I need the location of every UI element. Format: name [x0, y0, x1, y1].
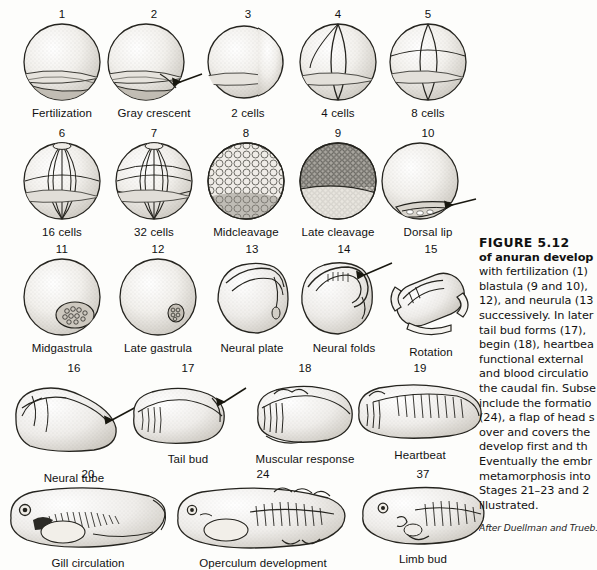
stage-number: 4: [335, 8, 342, 21]
stage-17: 17 Tail bud: [134, 362, 242, 466]
embryo-drawing-rotation: [385, 257, 477, 341]
caption-line: 12), and neurula (13: [479, 294, 597, 309]
caption-line: FIGURE 5.12: [479, 236, 597, 251]
stage-number: 17: [181, 362, 194, 375]
stage-number: 16: [67, 362, 80, 375]
embryo-drawing-tail-bud: [128, 376, 248, 448]
stage-number: 3: [245, 8, 252, 21]
caption-line: Stages 21–23 and 2: [479, 484, 597, 499]
stage-number: 15: [424, 243, 437, 256]
stage-5: 5 8 cells: [384, 8, 472, 120]
stage-label: Midcleavage: [213, 226, 279, 239]
caption-line: and blood circulatio: [479, 367, 597, 382]
stage-label: Fertilization: [32, 107, 92, 120]
embryo-drawing-sphere-midgast: [22, 257, 102, 337]
stage-9: 9 Late cleavage: [292, 127, 384, 239]
caption-line: functional external: [479, 353, 597, 368]
caption-line: begin (18), heartbea: [479, 338, 597, 353]
embryo-drawing-neural-folds: [296, 257, 392, 337]
stage-19: 19 Heartbeat: [368, 362, 472, 462]
embryo-plate: 1 Fertilization2 Gray crescent3: [0, 0, 472, 545]
stage-label: Late gastrula: [124, 342, 192, 355]
figure-caption: FIGURE 5.12of anuran developwith fertili…: [479, 236, 597, 545]
embryo-drawing-sphere-8cell: [388, 22, 468, 102]
stage-label: Heartbeat: [394, 449, 445, 462]
stage-label: 8 cells: [411, 107, 444, 120]
caption-line: illustrated.: [479, 499, 597, 514]
stage-2: 2 Gray crescent: [108, 8, 200, 120]
caption-line: (24), a flap of head s: [479, 411, 597, 426]
embryo-drawing-gill-larva: [3, 482, 173, 552]
stage-20: 20 Gill circulation: [8, 468, 168, 570]
caption-line: include the formatio: [479, 397, 597, 412]
embryo-drawing-sphere-latecleav: [298, 141, 378, 221]
caption-line: develop first and th: [479, 440, 597, 455]
embryo-drawing-neural-tube: [8, 376, 140, 456]
stage-7: 7 32 cells: [108, 127, 200, 239]
stage-label: Limb bud: [399, 553, 447, 566]
embryo-drawing-sphere-4cell: [298, 22, 378, 102]
stage-8: 8 Midcleavage: [200, 127, 292, 239]
stage-1: 1 Fertilization: [16, 8, 108, 120]
caption-line: successively. In later: [479, 309, 597, 324]
stage-11: 11 Midgastrula: [14, 243, 110, 355]
stage-label: Muscular response: [256, 453, 355, 466]
stage-label: Neural plate: [220, 342, 283, 355]
stage-label: Gill circulation: [51, 557, 124, 570]
caption-credit: After Duellman and Trueb.: [479, 522, 597, 534]
stage-label: Gray crescent: [118, 107, 191, 120]
stage-label: Late cleavage: [302, 226, 375, 239]
stage-number: 8: [243, 127, 250, 140]
caption-line: over and covers the: [479, 426, 597, 441]
stage-label: 16 cells: [42, 226, 82, 239]
stage-37: 37 Limb bud: [358, 468, 488, 566]
stage-15: 15 Rotation: [390, 243, 472, 359]
embryo-drawing-sphere-plain: [22, 22, 102, 102]
embryo-drawing-sphere-lategast: [118, 257, 198, 337]
stage-4: 4 4 cells: [294, 8, 382, 120]
caption-line: of anuran develop: [479, 251, 597, 266]
stage-label: 4 cells: [321, 107, 354, 120]
stage-24: 24 Operculum development: [168, 468, 358, 570]
stage-number: 11: [56, 243, 68, 256]
embryo-drawing-sphere-16cell: [22, 141, 102, 221]
stage-number: 37: [416, 468, 429, 481]
caption-line: Eventually the embr: [479, 455, 597, 470]
stage-number: 1: [59, 8, 66, 21]
stage-13: 13 Neural plate: [206, 243, 298, 355]
stage-number: 10: [421, 127, 434, 140]
stage-number: 12: [151, 243, 164, 256]
caption-line: metamorphosis into: [479, 470, 597, 485]
stage-12: 12 Late gastrula: [110, 243, 206, 355]
stage-14: 14 Neural folds: [298, 243, 390, 355]
stage-number: 24: [256, 468, 269, 481]
stage-label: Rotation: [409, 346, 453, 359]
caption-line: the caudal fin. Subse: [479, 382, 597, 397]
stage-label: Tail bud: [168, 453, 208, 466]
stage-16: 16 Neural tube: [14, 362, 134, 485]
stage-label: Midgastrula: [32, 342, 93, 355]
embryo-drawing-sphere-2cell: [208, 22, 288, 102]
stage-18: 18 Muscular response: [242, 362, 368, 466]
embryo-drawing-sphere-dorsallip: [380, 141, 476, 221]
stage-label: Operculum development: [199, 557, 326, 570]
stage-number: 19: [413, 362, 426, 375]
stage-3: 3 2 cells: [204, 8, 292, 120]
caption-line: blastula (9 and 10),: [479, 280, 597, 295]
stage-number: 20: [81, 468, 94, 481]
caption-line: tail bud forms (17),: [479, 324, 597, 339]
embryo-drawing-sphere-midcleav: [206, 141, 286, 221]
stage-number: 18: [298, 362, 311, 375]
stage-label: 2 cells: [231, 107, 264, 120]
stage-6: 6 16 cells: [16, 127, 108, 239]
stage-number: 5: [425, 8, 432, 21]
embryo-drawing-sphere-crescent: [106, 22, 202, 102]
stage-10: 10 Dorsal lip: [384, 127, 472, 239]
embryo-drawing-heartbeat: [353, 376, 487, 444]
embryo-drawing-neural-plate: [212, 257, 292, 337]
embryo-drawing-limbbud-larva: [355, 482, 491, 548]
caption-line: with fertilization (1): [479, 265, 597, 280]
stage-number: 9: [335, 127, 342, 140]
stage-number: 2: [151, 8, 158, 21]
